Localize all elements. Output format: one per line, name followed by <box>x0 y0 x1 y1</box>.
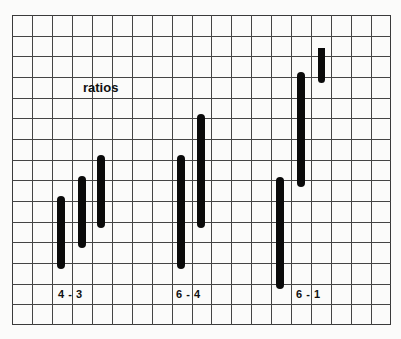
grid-vertical-line <box>132 15 133 325</box>
grid-vertical-line <box>231 15 232 325</box>
grid-vertical-line <box>311 15 312 325</box>
grid-vertical-line <box>211 15 212 325</box>
grid-horizontal-line <box>12 242 391 243</box>
grid-vertical-line <box>351 15 352 325</box>
grid-horizontal-line <box>12 304 391 305</box>
ratio-bar <box>276 177 284 289</box>
grid-vertical-line <box>152 15 153 325</box>
grid-vertical-line <box>271 15 272 325</box>
grid-horizontal-line <box>12 263 391 264</box>
grid-vertical-line <box>371 15 372 325</box>
grid-horizontal-line <box>12 98 391 99</box>
ratio-bar <box>177 155 185 269</box>
grid-vertical-line <box>32 15 33 325</box>
group-label: 6 - 4 <box>176 289 201 300</box>
ratio-bar <box>57 196 65 269</box>
ratio-bar <box>78 176 86 248</box>
group-label: 4 - 3 <box>58 289 83 300</box>
ratio-bar <box>197 114 205 228</box>
grid-horizontal-line <box>12 284 391 285</box>
ratios-diagram: ratios 4 - 36 - 46 - 1 <box>0 0 401 339</box>
grid-horizontal-line <box>12 36 391 37</box>
grid-vertical-line <box>251 15 252 325</box>
diagram-title: ratios <box>83 81 118 94</box>
grid-vertical-line <box>172 15 173 325</box>
grid-vertical-line <box>112 15 113 325</box>
grid-vertical-line <box>291 15 292 325</box>
group-label: 6 - 1 <box>296 289 321 300</box>
ratio-bar <box>97 155 105 228</box>
grid-vertical-line <box>331 15 332 325</box>
grid-horizontal-line <box>12 77 391 78</box>
ratio-bar <box>318 48 325 83</box>
grid-horizontal-line <box>12 56 391 57</box>
grid-vertical-line <box>52 15 53 325</box>
grid-vertical-line <box>72 15 73 325</box>
ratio-bar <box>297 72 305 187</box>
grid-vertical-line <box>92 15 93 325</box>
grid-vertical-line <box>192 15 193 325</box>
